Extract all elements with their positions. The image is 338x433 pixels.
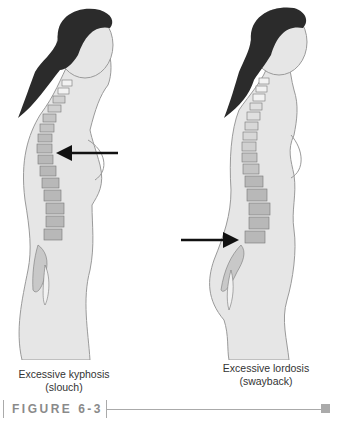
kyphosis-illustration bbox=[0, 0, 169, 360]
caption-kyphosis-title: Excessive kyphosis bbox=[0, 368, 128, 381]
figure-bar-left-divider bbox=[3, 400, 4, 418]
caption-lordosis: Excessive lordosis (swayback) bbox=[206, 362, 326, 388]
figure-rule bbox=[107, 409, 321, 410]
lordosis-illustration bbox=[169, 0, 338, 360]
caption-kyphosis-subtitle: (slouch) bbox=[0, 381, 128, 394]
caption-lordosis-subtitle: (swayback) bbox=[206, 375, 326, 388]
figure-end-square-icon bbox=[321, 404, 330, 413]
caption-kyphosis: Excessive kyphosis (slouch) bbox=[0, 368, 128, 394]
figure-label: FIGURE 6-3 bbox=[12, 402, 103, 416]
caption-lordosis-title: Excessive lordosis bbox=[206, 362, 326, 375]
